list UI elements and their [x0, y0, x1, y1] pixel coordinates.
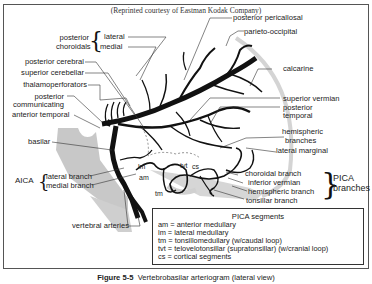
legend-item: cs = cortical segments — [158, 253, 363, 261]
label-posterior-temporal-2: temporal — [283, 112, 313, 120]
mark-tvt: tvt — [180, 162, 187, 170]
mark-lm: lm — [138, 163, 145, 171]
label-inferior-vermian: inferior vermian — [248, 179, 300, 187]
label-parieto-occipital: parieto-occipital — [244, 28, 297, 36]
mark-cs: cs — [192, 163, 199, 171]
figure-caption: Figure 5-5 Vertebrobasilar arteriogram (… — [0, 273, 372, 282]
label-anterior-temporal: anterior temporal — [12, 111, 69, 119]
label-hemispheric-branches-2: branches — [285, 137, 316, 145]
label-hemispheric-branches-1: hemispheric — [282, 128, 323, 136]
label-posterior-communicating-2: communicating — [13, 101, 64, 109]
label-lateral: lateral — [104, 33, 125, 41]
label-thalamoperforators: thalamoperforators — [10, 81, 87, 89]
label-medial: medial — [100, 43, 122, 51]
figure-caption-text: Vertebrobasilar arteriogram (lateral vie… — [138, 273, 275, 282]
label-aica: AICA — [15, 177, 34, 185]
label-vertebral-arteries: vertebral arteries — [72, 222, 129, 230]
label-aica-lateral: lateral branch — [46, 173, 92, 181]
mark-am: am — [139, 174, 149, 182]
figure-number: Figure 5-5 — [97, 273, 133, 282]
label-superior-vermian: superior vermian — [283, 95, 340, 103]
label-posterior-choroidals: posterior choroidals — [56, 33, 89, 51]
label-basilar: basilar — [28, 138, 50, 146]
label-calcarine: calcarine — [283, 65, 313, 73]
label-aica-medial: medial branch — [46, 182, 94, 190]
label-choroidal-branch: choroidal branch — [245, 170, 301, 178]
label-pica-branches: PICA branches — [333, 174, 370, 193]
label-posterior-pericallosal: posterior pericallosal — [233, 14, 303, 22]
label-lateral-marginal: lateral marginal — [276, 147, 328, 155]
mark-tm: tm — [155, 190, 163, 198]
label-posterior-cerebral: posterior cerebral — [10, 58, 84, 66]
label-tonsillar-branch: tonsillar branch — [246, 197, 298, 205]
label-hemispheric-branch: hemispheric branch — [248, 188, 314, 196]
pica-segments-legend: PICA segments am = anterior medullary lm… — [152, 208, 364, 265]
label-superior-cerebellar: superior cerebellar — [10, 69, 84, 77]
